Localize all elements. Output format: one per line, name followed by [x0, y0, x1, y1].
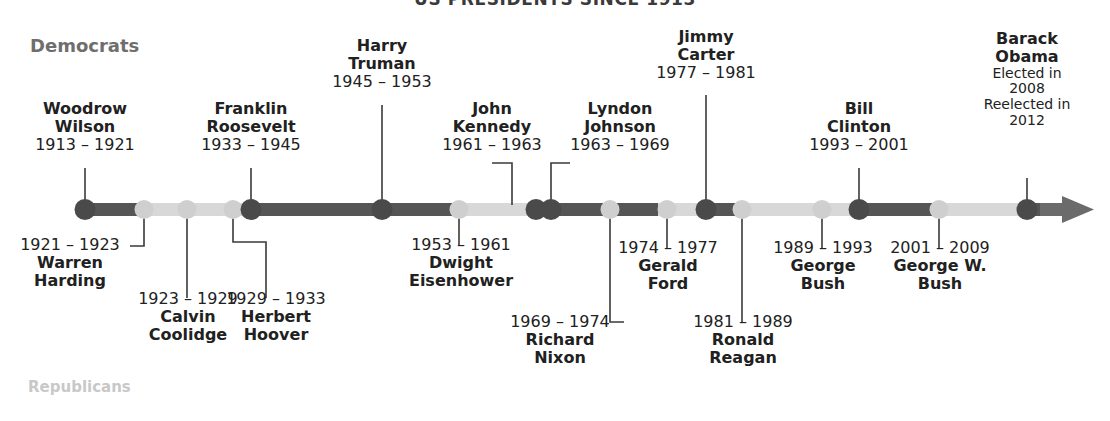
label-reagan-first: Ronald [663, 331, 823, 349]
dot-roosevelt [241, 199, 262, 220]
label-wilson: Woodrow Wilson 1913 – 1921 [5, 100, 165, 154]
timeline-arrow-head [1040, 196, 1094, 223]
dot-reagan [733, 200, 752, 219]
label-nixon-last: Nixon [480, 349, 640, 367]
dot-nixon [601, 200, 620, 219]
label-obama-reelected: Reelected in [957, 97, 1097, 113]
label-carter: Jimmy Carter 1977 – 1981 [626, 28, 786, 82]
label-ford-years: 1974 – 1977 [588, 239, 748, 257]
label-ford-first: Gerald [588, 257, 748, 275]
label-carter-years: 1977 – 1981 [626, 64, 786, 82]
dot-eisenhower [450, 200, 469, 219]
label-harding-last: Harding [0, 272, 140, 290]
dot-ford [658, 200, 677, 219]
label-hoover-last: Hoover [196, 326, 356, 344]
dot-bush41 [813, 200, 832, 219]
label-truman-years: 1945 – 1953 [302, 73, 462, 91]
dot-bush43 [930, 200, 949, 219]
label-bush43-first: George W. [860, 257, 1020, 275]
label-hoover-years: 1929 – 1933 [196, 290, 356, 308]
dot-clinton [849, 199, 870, 220]
dot-carter [696, 199, 717, 220]
label-truman-last: Truman [302, 55, 462, 73]
label-eisenhower-last: Eisenhower [376, 272, 546, 290]
label-obama-elected: Elected in [957, 66, 1097, 82]
label-wilson-first: Woodrow [5, 100, 165, 118]
label-clinton-first: Bill [779, 100, 939, 118]
label-roosevelt-last: Roosevelt [171, 118, 331, 136]
label-obama-reelected-year: 2012 [957, 113, 1097, 129]
label-johnson-first: Lyndon [540, 100, 700, 118]
label-eisenhower-years: 1953 – 1961 [376, 236, 546, 254]
label-clinton: Bill Clinton 1993 – 2001 [779, 100, 939, 154]
label-clinton-last: Clinton [779, 118, 939, 136]
label-bush43: 2001 – 2009 George W. Bush [860, 239, 1020, 293]
dot-truman [372, 199, 393, 220]
label-hoover-first: Herbert [196, 308, 356, 326]
label-roosevelt-first: Franklin [171, 100, 331, 118]
label-eisenhower: 1953 – 1961 Dwight Eisenhower [376, 236, 546, 290]
label-bush43-years: 2001 – 2009 [860, 239, 1020, 257]
label-nixon-first: Richard [480, 331, 640, 349]
label-reagan-last: Reagan [663, 349, 823, 367]
label-obama-last: Obama [957, 48, 1097, 66]
dot-hoover [224, 200, 243, 219]
dot-wilson [75, 199, 96, 220]
label-nixon-years: 1969 – 1974 [480, 313, 640, 331]
label-reagan-years: 1981 – 1989 [663, 313, 823, 331]
label-johnson-years: 1963 – 1969 [540, 136, 700, 154]
label-truman-first: Harry [302, 37, 462, 55]
label-truman: Harry Truman 1945 – 1953 [302, 37, 462, 91]
label-johnson: Lyndon Johnson 1963 – 1969 [540, 100, 700, 154]
label-hoover: 1929 – 1933 Herbert Hoover [196, 290, 356, 344]
label-bush43-last: Bush [860, 275, 1020, 293]
label-ford-last: Ford [588, 275, 748, 293]
label-obama-elected-year: 2008 [957, 81, 1097, 97]
label-carter-first: Jimmy [626, 28, 786, 46]
label-reagan: 1981 – 1989 Ronald Reagan [663, 313, 823, 367]
label-clinton-years: 1993 – 2001 [779, 136, 939, 154]
dot-obama [1017, 199, 1038, 220]
label-johnson-last: Johnson [540, 118, 700, 136]
dot-harding [135, 200, 154, 219]
label-eisenhower-first: Dwight [376, 254, 546, 272]
dot-coolidge [178, 200, 197, 219]
label-nixon: 1969 – 1974 Richard Nixon [480, 313, 640, 367]
label-harding: 1921 – 1923 Warren Harding [0, 236, 140, 290]
label-wilson-years: 1913 – 1921 [5, 136, 165, 154]
label-ford: 1974 – 1977 Gerald Ford [588, 239, 748, 293]
label-obama: Barack Obama Elected in 2008 Reelected i… [957, 30, 1097, 129]
label-wilson-last: Wilson [5, 118, 165, 136]
timeline-infographic: US PRESIDENTS SINCE 1913 Democrats Repub… [0, 0, 1110, 421]
label-carter-last: Carter [626, 46, 786, 64]
label-harding-years: 1921 – 1923 [0, 236, 140, 254]
label-obama-first: Barack [957, 30, 1097, 48]
label-harding-first: Warren [0, 254, 140, 272]
label-roosevelt-years: 1933 – 1945 [171, 136, 331, 154]
label-roosevelt: Franklin Roosevelt 1933 – 1945 [171, 100, 331, 154]
dot-johnson [541, 199, 562, 220]
